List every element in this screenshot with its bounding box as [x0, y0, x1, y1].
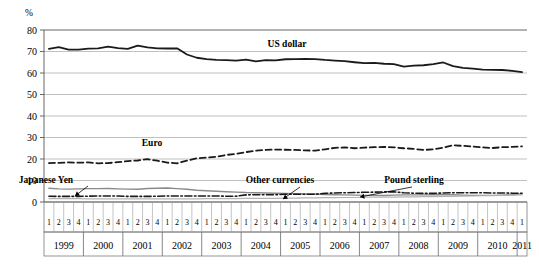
y-tick-label-0: 0 [32, 197, 37, 208]
quarter-tick-label: 1 [362, 218, 366, 227]
y-tick-label-70: 70 [27, 46, 37, 57]
quarter-tick-label: 2 [372, 218, 376, 227]
y-tick-label-50: 50 [27, 89, 37, 100]
chart-canvas: 01020304050607080 % US dollarEuroJapanes… [0, 0, 539, 276]
quarter-tick-label: 2 [333, 218, 337, 227]
leader-arrow-pound-sterling [360, 194, 365, 199]
quarter-tick-label: 1 [441, 218, 445, 227]
quarter-tick-label: 3 [146, 218, 150, 227]
year-label-2009: 2009 [448, 240, 468, 251]
quarter-tick-label: 3 [185, 218, 189, 227]
quarter-tick-label: 4 [234, 218, 238, 227]
quarter-tick-label: 4 [431, 218, 435, 227]
year-label-2011: 2011 [512, 240, 532, 251]
year-label-2008: 2008 [409, 240, 429, 251]
quarter-tick-label: 4 [274, 218, 278, 227]
quarter-tick-label: 1 [323, 218, 327, 227]
y-tick-label-80: 80 [27, 25, 37, 36]
quarter-tick-label: 2 [293, 218, 297, 227]
quarter-tick-label: 2 [412, 218, 416, 227]
quarter-tick-label: 4 [392, 218, 396, 227]
quarter-tick-label: 3 [422, 218, 426, 227]
series-label-japanese-yen: Japanese Yen [19, 175, 74, 185]
quarter-tick-label: 2 [491, 218, 495, 227]
quarter-tick-label: 2 [215, 218, 219, 227]
quarter-tick-label: 1 [165, 218, 169, 227]
year-label-2001: 2001 [133, 240, 153, 251]
quarter-tick-label: 3 [343, 218, 347, 227]
quarter-tick-label: 3 [382, 218, 386, 227]
y-tick-label-40: 40 [27, 111, 37, 122]
series-line-euro [49, 145, 522, 163]
percent-unit-label: % [25, 8, 33, 18]
quarter-tick-label: 2 [451, 218, 455, 227]
year-label-2005: 2005 [290, 240, 310, 251]
quarter-tick-label: 3 [461, 218, 465, 227]
y-tick-label-60: 60 [27, 68, 37, 79]
quarter-tick-label: 4 [195, 218, 199, 227]
quarter-tick-label: 3 [224, 218, 228, 227]
leader-arrow-japanese-yen [75, 191, 80, 196]
quarter-tick-label: 2 [254, 218, 258, 227]
quarter-tick-label: 1 [86, 218, 90, 227]
x-axis: 1234199912342000123420011234200212342003… [44, 202, 532, 256]
quarter-tick-label: 4 [510, 218, 514, 227]
year-label-2006: 2006 [330, 240, 350, 251]
quarter-tick-label: 3 [303, 218, 307, 227]
year-label-2007: 2007 [369, 240, 389, 251]
quarter-tick-label: 4 [353, 218, 357, 227]
quarter-tick-label: 3 [67, 218, 71, 227]
quarter-tick-label: 4 [155, 218, 159, 227]
quarter-tick-label: 4 [77, 218, 81, 227]
quarter-tick-label: 3 [264, 218, 268, 227]
year-label-2003: 2003 [211, 240, 231, 251]
quarter-tick-label: 3 [500, 218, 504, 227]
y-tick-label-20: 20 [27, 154, 37, 165]
quarter-tick-label: 4 [471, 218, 475, 227]
quarter-row-frame [44, 202, 527, 232]
series-label-other-currencies: Other currencies [246, 175, 315, 185]
quarter-tick-label: 1 [47, 218, 51, 227]
quarter-tick-label: 4 [116, 218, 120, 227]
series-label-euro: Euro [142, 138, 163, 148]
quarter-tick-label: 1 [205, 218, 209, 227]
quarter-tick-label: 4 [313, 218, 317, 227]
quarter-tick-label: 2 [96, 218, 100, 227]
quarter-tick-label: 1 [126, 218, 130, 227]
quarter-tick-label: 1 [402, 218, 406, 227]
quarter-tick-label: 1 [244, 218, 248, 227]
year-label-2002: 2002 [172, 240, 192, 251]
year-label-2000: 2000 [93, 240, 113, 251]
quarter-tick-label: 1 [481, 218, 485, 227]
quarter-tick-label: 2 [175, 218, 179, 227]
series-label-pound-sterling: Pound sterling [384, 175, 444, 185]
year-label-1999: 1999 [54, 240, 74, 251]
series-line-us-dollar [49, 46, 522, 72]
series-label-us-dollar: US dollar [268, 39, 308, 49]
quarter-tick-label: 2 [57, 218, 61, 227]
quarter-tick-label: 3 [106, 218, 110, 227]
currency-composition-chart: 01020304050607080 % US dollarEuroJapanes… [0, 0, 539, 276]
year-label-2010: 2010 [487, 240, 507, 251]
y-tick-label-30: 30 [27, 132, 37, 143]
y-axis-unit-label: % [25, 8, 33, 18]
quarter-tick-label: 2 [136, 218, 140, 227]
quarter-tick-label: 1 [284, 218, 288, 227]
year-label-2004: 2004 [251, 240, 271, 251]
quarter-tick-label: 1 [520, 218, 524, 227]
